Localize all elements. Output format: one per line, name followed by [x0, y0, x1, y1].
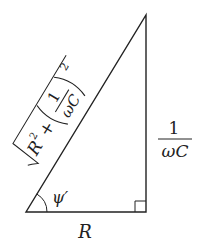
impedance-triangle-diagram: ψ′ R 1 ωC R 2 + 1 ωC 2 [0, 0, 208, 250]
right-angle-marker [135, 201, 146, 212]
base-label: R [77, 221, 92, 242]
hyp-outer-exp: 2 [57, 60, 72, 73]
height-denominator: ωC [162, 141, 189, 161]
height-label: 1 ωC [158, 118, 192, 161]
sqrt-sign [7, 55, 93, 169]
angle-label: ψ′ [52, 188, 69, 207]
hyp-frac-den: ωC [57, 91, 85, 121]
angle-arc [37, 194, 47, 212]
height-numerator: 1 [169, 118, 180, 138]
